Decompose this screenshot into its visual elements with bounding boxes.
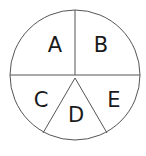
region-label-b: B [94, 33, 108, 57]
region-label-d: D [68, 103, 84, 127]
region-label-e: E [107, 88, 120, 112]
region-label-a: A [48, 33, 63, 57]
divided-circle-diagram: A B C D E [0, 0, 146, 156]
region-label-c: C [34, 88, 49, 112]
